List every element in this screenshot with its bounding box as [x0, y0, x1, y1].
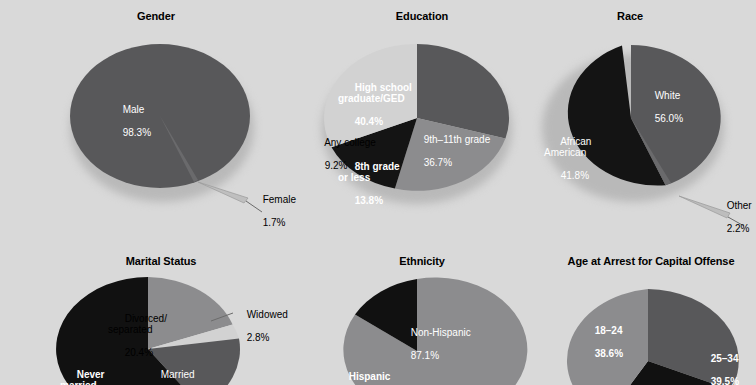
chart-education: Education High school graduate/GED 40.4%… [300, 10, 550, 230]
label-age-18-24-text: 18–24 [595, 325, 623, 336]
chart-title-age-at-arrest: Age at Arrest for Capital Offense [536, 255, 756, 267]
pie-ethnicity: Non-Hispanic 87.1% Hispanic [300, 275, 550, 385]
label-widowed-value: 2.8% [247, 332, 270, 343]
chart-title-race: Race [540, 10, 720, 22]
pie-marital-status: Divorced/ separated 20.4% Widowed 2.8% N… [48, 275, 298, 385]
label-hispanic: Hispanic [332, 359, 390, 385]
label-married-text: Married [161, 369, 195, 380]
chart-race: Race White 56.0% African American 41.8% … [530, 10, 756, 230]
label-anycollege: Any college 9.2% [308, 125, 376, 183]
chart-title-gender: Gender [66, 10, 246, 22]
label-african-american-text: African American [544, 136, 591, 159]
label-highschool-text: High school graduate/GED [338, 82, 412, 105]
label-white-value: 56.0% [655, 113, 683, 124]
label-married: Married 22.2% [144, 357, 195, 385]
label-other: Other 2.2% [710, 188, 752, 246]
pie-age-at-arrest: 18–24 38.6% 25–34 39.5% [530, 275, 756, 385]
label-anycollege-text: Any college [324, 137, 376, 148]
label-non-hispanic-text: Non-Hispanic [411, 327, 471, 338]
label-anycollege-value: 9.2% [325, 160, 348, 171]
chart-ethnicity: Ethnicity Non-Hispanic 87.1% Hispanic [300, 255, 550, 385]
label-female-text: Female [263, 194, 296, 205]
label-white: White 56.0% [638, 78, 683, 136]
label-female: Female 1.7% [246, 182, 296, 240]
label-non-hispanic-value: 87.1% [411, 350, 439, 361]
label-never-married-text: Never married [60, 369, 104, 385]
label-widowed-text: Widowed [247, 309, 288, 320]
label-white-text: White [655, 90, 681, 101]
label-ninth-text: 9th–11th grade [424, 134, 491, 145]
label-ninth-value: 36.7% [424, 157, 452, 168]
label-male-text: Male [123, 104, 145, 115]
chart-age-at-arrest: Age at Arrest for Capital Offense 18–24 … [530, 255, 756, 385]
chart-gender: Gender Male 98.3% Female 1.7% [48, 10, 298, 230]
label-female-value: 1.7% [263, 217, 286, 228]
label-age-18-24-value: 38.6% [595, 348, 623, 359]
label-eighth-value: 13.8% [355, 195, 383, 206]
label-male: Male 98.3% [106, 92, 151, 150]
label-african-american-value: 41.8% [561, 170, 589, 181]
pie-education: High school graduate/GED 40.4% 9th–11th … [300, 30, 550, 220]
chart-marital-status: Marital Status Divorced/ separated 20.4%… [48, 255, 298, 385]
pie-gender: Male 98.3% Female 1.7% [48, 30, 298, 220]
label-age-18-24: 18–24 38.6% [578, 313, 623, 371]
label-widowed: Widowed 2.8% [230, 297, 288, 355]
label-age-25-34-text: 25–34 [711, 353, 739, 364]
label-age-25-34: 25–34 39.5% [694, 341, 739, 385]
label-age-25-34-value: 39.5% [711, 376, 739, 385]
label-african-american: African American 41.8% [544, 124, 591, 193]
label-divorced-text: Divorced/ separated [108, 313, 167, 336]
label-ninth: 9th–11th grade 36.7% [407, 122, 490, 180]
chart-title-education: Education [322, 10, 522, 22]
label-other-text: Other [727, 200, 752, 211]
label-never-married: Never married [60, 357, 104, 385]
chart-title-marital-status: Marital Status [66, 255, 256, 267]
label-other-value: 2.2% [727, 223, 750, 234]
label-hispanic-text: Hispanic [349, 371, 391, 382]
chart-title-ethnicity: Ethnicity [322, 255, 522, 267]
pie-race: White 56.0% African American 41.8% Other… [530, 30, 756, 220]
label-non-hispanic: Non-Hispanic 87.1% [394, 315, 471, 373]
label-male-value: 98.3% [123, 127, 151, 138]
